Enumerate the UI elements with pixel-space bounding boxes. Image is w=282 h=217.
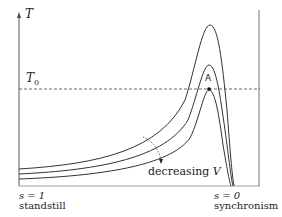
t0-label-sub: 0: [34, 78, 39, 87]
v-var: V: [213, 165, 221, 178]
torque-slip-diagram: [0, 0, 282, 217]
operating-point-a: [207, 87, 211, 91]
decreasing-text: decreasing: [148, 165, 213, 178]
decreasing-v-label: decreasing V: [148, 166, 221, 177]
standstill-label: standstill: [19, 201, 66, 211]
y-axis-arrow-icon: [17, 12, 21, 18]
y-axis-label: T: [25, 8, 33, 20]
t0-label-main: T: [26, 71, 34, 85]
point-a-label: A: [205, 74, 211, 83]
t0-label: T0: [26, 72, 39, 87]
synchronism-label: synchronism: [214, 201, 278, 211]
decreasing-arrow-head-icon: [159, 159, 163, 164]
